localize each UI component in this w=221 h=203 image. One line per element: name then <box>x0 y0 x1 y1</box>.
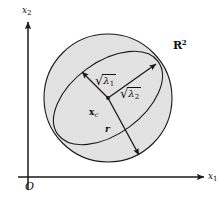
radius-r-label: r <box>105 125 110 134</box>
ellipse-center-dot <box>106 96 110 100</box>
origin-label: O <box>25 181 34 192</box>
sqrt-lambda-1-expression: √λ1 <box>95 74 116 88</box>
space-label-exponent: 2 <box>182 38 187 47</box>
figure-container: x2 x1 O R2 xc √λ1 √λ2 r <box>0 0 221 203</box>
sqrt-lambda-2-radicand: λ2 <box>127 87 141 101</box>
sqrt-lambda-2-label: √λ2 <box>120 87 141 101</box>
x-axis-label: x1 <box>208 172 218 183</box>
space-label-base: R <box>173 39 182 52</box>
center-point-label-sub: c <box>94 111 98 119</box>
sqrt-lambda-2-sub: 2 <box>135 93 139 101</box>
space-label-r2: R2 <box>173 39 187 51</box>
sqrt-lambda-1-sub: 1 <box>110 80 114 88</box>
sqrt-lambda-1-label: √λ1 <box>95 74 116 88</box>
x-axis-label-sub: 1 <box>213 175 217 183</box>
center-point-label: xc <box>89 108 98 118</box>
sqrt-lambda-1-radicand: λ1 <box>102 74 116 88</box>
y-axis-label-sub: 2 <box>27 9 31 17</box>
sqrt-lambda-2-expression: √λ2 <box>120 87 141 101</box>
figure-canvas <box>0 0 221 203</box>
y-axis-label: x2 <box>22 6 32 17</box>
